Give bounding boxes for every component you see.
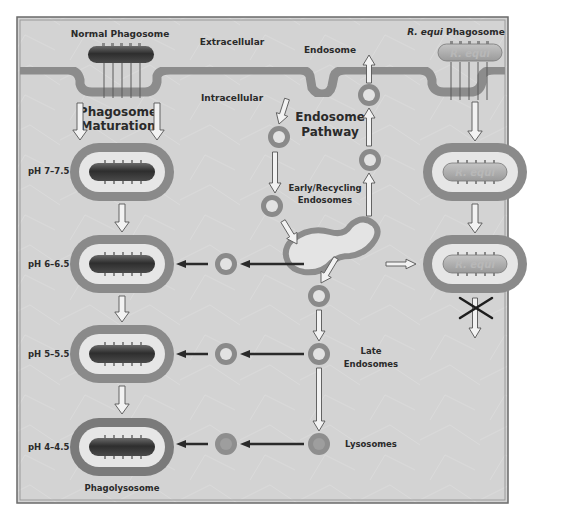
- late-endosome-vesicle: [308, 285, 330, 307]
- early-recycling-label-line2: Endosomes: [298, 195, 352, 205]
- pilus-spike: [457, 252, 459, 255]
- normal-phagosome-label: Normal Phagosome: [71, 29, 170, 39]
- ph-label-stage-3: pH 5–5.5: [28, 349, 69, 359]
- pilus-spike: [484, 252, 486, 255]
- phagosome-stage-ph6: [70, 235, 174, 293]
- endosome-label: Endosome: [304, 45, 356, 55]
- pilus-spike: [104, 456, 106, 459]
- pilus-spike: [104, 181, 106, 184]
- pilus-spike: [457, 160, 459, 163]
- endosome-pathway-label-line2: Pathway: [301, 125, 359, 139]
- bacterium-body: [89, 255, 155, 273]
- pilus-spike: [475, 273, 477, 276]
- requi-body-label: R. equi: [450, 48, 490, 59]
- pilus-spike: [122, 435, 124, 438]
- lysosome-vesicle: [308, 433, 330, 455]
- pilus-spike: [122, 252, 124, 255]
- pilus-spike: [113, 456, 115, 459]
- early-recycling-label-line1: Early/Recycling: [288, 183, 361, 193]
- pilus-spike: [475, 160, 477, 163]
- ph-label-stage-1: pH 7–7.5: [28, 166, 69, 176]
- pilus-spike: [113, 363, 115, 366]
- requi-phagosome-stage-1: R. equi: [423, 143, 527, 201]
- requi-phagosome-label: R. equi Phagosome: [407, 27, 505, 37]
- pilus-spike: [104, 160, 106, 163]
- bacterium-body: [89, 438, 155, 456]
- endosome-pathway-label-line1: Endosome: [295, 110, 365, 124]
- pilus-spike: [104, 363, 106, 366]
- pilus-spike: [475, 181, 477, 184]
- pilus-spike: [104, 342, 106, 345]
- requi-body-label: R. equi: [455, 167, 495, 178]
- phagolysosome-stage-ph4: [70, 418, 174, 476]
- intracellular-label: Intracellular: [201, 93, 264, 103]
- phagosome-maturation-label-line1: Phagosome: [79, 105, 157, 119]
- pilus-spike: [122, 181, 124, 184]
- pilus-spike: [113, 435, 115, 438]
- pilus-spike: [113, 342, 115, 345]
- pilus-spike: [466, 160, 468, 163]
- pilus-spike: [140, 252, 142, 255]
- early-endosome-vesicle: [268, 126, 290, 148]
- phagosome-maturation-diagram: R. equi Normal Phagosome R. equi Phagoso…: [0, 0, 563, 523]
- pilus-spike: [131, 160, 133, 163]
- pilus-spike: [140, 273, 142, 276]
- pilus-spike: [140, 160, 142, 163]
- pilus-spike: [131, 363, 133, 366]
- pilus-spike: [104, 252, 106, 255]
- pilus-spike: [131, 456, 133, 459]
- pilus-spike: [122, 363, 124, 366]
- pilus-spike: [484, 160, 486, 163]
- pilus-spike: [466, 273, 468, 276]
- pilus-spike: [131, 273, 133, 276]
- pilus-spike: [140, 456, 142, 459]
- phagosome-maturation-label-line2: Maturation: [81, 119, 156, 133]
- pilus-spike: [493, 181, 495, 184]
- pilus-spike: [131, 342, 133, 345]
- recycling-endosome-vesicle: [358, 84, 380, 106]
- ph-label-stage-4: pH 4–4.5: [28, 442, 69, 452]
- phagosome-stage-ph5: [70, 325, 174, 383]
- fusing-early-endosome-vesicle: [215, 253, 237, 275]
- pilus-spike: [466, 252, 468, 255]
- pilus-spike: [122, 342, 124, 345]
- fusing-lysosome-vesicle: [215, 433, 237, 455]
- pilus-spike: [475, 252, 477, 255]
- pilus-spike: [131, 435, 133, 438]
- bacterium-body: [89, 345, 155, 363]
- pilus-spike: [113, 252, 115, 255]
- early-endosome-vesicle: [261, 195, 283, 217]
- pilus-spike: [493, 273, 495, 276]
- pilus-spike: [484, 181, 486, 184]
- pilus-spike: [122, 456, 124, 459]
- fusing-late-endosome-vesicle: [215, 343, 237, 365]
- late-endosome-vesicle: [308, 343, 330, 365]
- pilus-spike: [457, 273, 459, 276]
- pilus-spike: [104, 273, 106, 276]
- pilus-spike: [140, 435, 142, 438]
- pilus-spike: [122, 160, 124, 163]
- pilus-spike: [122, 273, 124, 276]
- requi-phagosome-stage-2: R. equi: [423, 235, 527, 293]
- pilus-spike: [493, 160, 495, 163]
- pilus-spike: [466, 181, 468, 184]
- recycling-endosome-vesicle: [359, 149, 381, 171]
- requi-body-label: R. equi: [455, 259, 495, 270]
- pilus-spike: [113, 160, 115, 163]
- pilus-spike: [140, 363, 142, 366]
- late-endosomes-label-line2: Endosomes: [344, 359, 398, 369]
- phagosome-stage-ph7: [70, 143, 174, 201]
- late-endosomes-label-line1: Late: [361, 346, 382, 356]
- bacterium-body: [89, 163, 155, 181]
- pilus-spike: [484, 273, 486, 276]
- pilus-spike: [113, 273, 115, 276]
- pilus-spike: [131, 252, 133, 255]
- pilus-spike: [493, 252, 495, 255]
- pilus-spike: [140, 342, 142, 345]
- pilus-spike: [104, 435, 106, 438]
- lysosomes-label: Lysosomes: [345, 439, 397, 449]
- pilus-spike: [131, 181, 133, 184]
- ph-label-stage-2: pH 6–6.5: [28, 259, 69, 269]
- pilus-spike: [140, 181, 142, 184]
- pilus-spike: [457, 181, 459, 184]
